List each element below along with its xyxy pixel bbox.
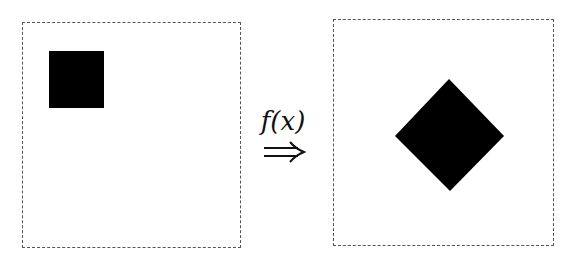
black-diamond xyxy=(0,0,581,261)
